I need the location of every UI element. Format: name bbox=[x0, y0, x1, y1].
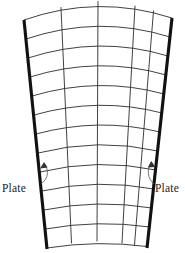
mesh-radial-3 bbox=[122, 6, 135, 243]
mesh-arc-7 bbox=[38, 145, 158, 153]
mesh-arc-8 bbox=[40, 164, 156, 172]
mesh-arc-11 bbox=[46, 224, 151, 229]
plate-diagram-figure: Plate Plate bbox=[0, 0, 185, 253]
plate-label-left: Plate bbox=[2, 182, 26, 194]
plate-diagram-canvas: Plate Plate bbox=[0, 0, 185, 253]
right-leader-arrowhead bbox=[148, 161, 155, 167]
mesh-arc-6 bbox=[36, 125, 160, 134]
right-plate-edge bbox=[147, 18, 172, 248]
mesh-arc-10 bbox=[44, 204, 152, 210]
mesh-radial-1 bbox=[61, 8, 72, 244]
mesh-arc-9 bbox=[42, 184, 154, 191]
left-leader-arrowhead bbox=[40, 162, 47, 168]
mesh-arc-12 bbox=[47, 244, 147, 248]
mesh-radial-group bbox=[61, 2, 154, 246]
plate-label-right: Plate bbox=[155, 182, 179, 194]
mesh-radial-2 bbox=[97, 2, 98, 242]
left-plate-edge bbox=[24, 20, 47, 249]
